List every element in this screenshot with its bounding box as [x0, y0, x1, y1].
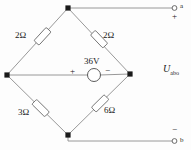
- node-right: [127, 71, 132, 76]
- resistor-bottom-left-body: [32, 99, 50, 116]
- terminal-b-dot: [172, 139, 177, 144]
- wire-terminal-b-lead: [68, 135, 172, 141]
- voltage-source-label: 36V: [84, 57, 100, 66]
- node-bottom: [65, 132, 70, 137]
- resistor-top-left-label: 2Ω: [15, 31, 26, 40]
- resistor-bottom-right-label: 6Ω: [104, 106, 115, 115]
- resistor-top-right-label: 2Ω: [103, 31, 114, 40]
- node-top: [65, 5, 70, 10]
- terminal-b-polarity: −: [172, 125, 177, 134]
- resistor-top-left-body: [34, 27, 51, 45]
- terminal-a-dot: [172, 6, 177, 11]
- circuit-diagram: 2Ω 2Ω 3Ω 6Ω 36V + − a + − b Uabo: [0, 0, 191, 150]
- output-voltage-label: Uabo: [163, 64, 179, 76]
- output-voltage-subscript: abo: [170, 70, 179, 76]
- terminal-b-label: b: [180, 137, 184, 144]
- voltage-source-plus-sign: +: [70, 67, 75, 76]
- voltage-source-symbol: [88, 69, 101, 82]
- node-left: [4, 72, 9, 77]
- terminal-a-label: a: [180, 3, 183, 10]
- terminal-a-polarity: +: [172, 12, 177, 21]
- junction-nodes: [4, 5, 132, 137]
- resistor-bottom-left-label: 3Ω: [18, 108, 29, 117]
- voltage-source-minus-sign: −: [105, 66, 110, 75]
